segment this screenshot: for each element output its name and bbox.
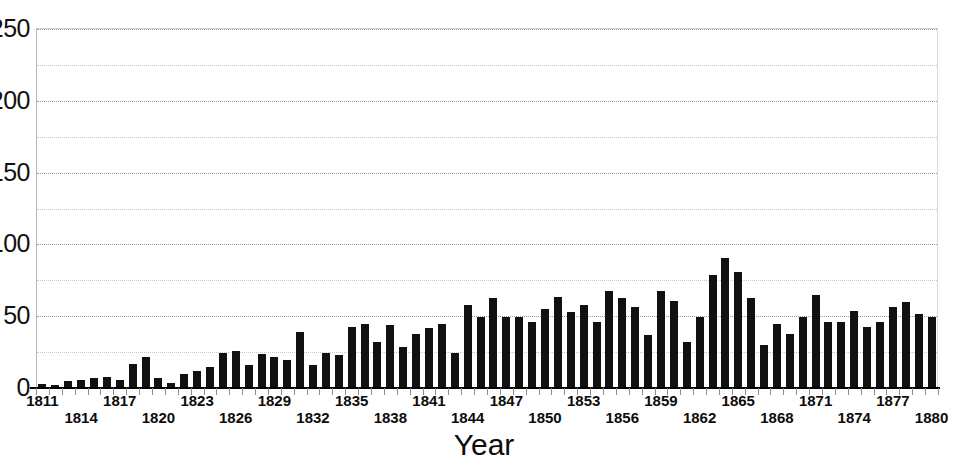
x-axis-tick xyxy=(216,388,217,395)
x-axis-tick xyxy=(680,388,681,395)
x-axis-tick xyxy=(925,388,926,395)
x-axis-tick-label: 1853 xyxy=(567,392,600,409)
bar xyxy=(721,258,729,387)
bar xyxy=(580,305,588,387)
bar xyxy=(631,307,639,387)
bar xyxy=(928,317,936,387)
bar xyxy=(348,327,356,387)
x-axis-tick xyxy=(861,388,862,395)
x-axis-tick xyxy=(307,388,308,395)
x-axis-tick-label: 1859 xyxy=(644,392,677,409)
x-axis-tick xyxy=(616,388,617,395)
bar xyxy=(528,322,536,387)
x-axis-tick-label: 1823 xyxy=(180,392,213,409)
x-axis-tick xyxy=(88,388,89,395)
y-axis-tick-label: 200 xyxy=(0,87,30,112)
bar xyxy=(425,328,433,387)
x-axis-tick xyxy=(629,388,630,395)
y-axis-tick-label: 100 xyxy=(0,231,30,256)
x-axis-tick xyxy=(75,388,76,395)
x-axis-tick xyxy=(874,388,875,395)
bar xyxy=(142,357,150,387)
x-axis-tick xyxy=(423,388,424,395)
x-axis-tick xyxy=(229,388,230,395)
bar xyxy=(335,355,343,387)
x-axis-tick xyxy=(848,388,849,395)
x-axis-tick xyxy=(152,388,153,395)
bar xyxy=(245,365,253,387)
x-axis-tick xyxy=(667,388,668,395)
x-axis-tick xyxy=(255,388,256,395)
x-axis-tick-labels: 1811181418171820182318261829183218351838… xyxy=(0,392,968,432)
bar xyxy=(502,317,510,387)
x-axis-tick-label: 1811 xyxy=(26,392,59,409)
x-axis-tick xyxy=(655,388,656,395)
bar xyxy=(386,325,394,387)
bar xyxy=(734,272,742,387)
x-axis-tick-label: 1814 xyxy=(64,409,97,426)
x-axis-tick-label: 1880 xyxy=(915,409,948,426)
bar xyxy=(773,324,781,387)
x-axis-tick xyxy=(526,388,527,395)
bar xyxy=(850,311,858,387)
x-axis-tick-label: 1829 xyxy=(258,392,291,409)
bar xyxy=(812,295,820,387)
bar xyxy=(747,298,755,387)
bar xyxy=(696,317,704,387)
x-axis-line xyxy=(30,387,940,389)
x-axis-tick-label: 1820 xyxy=(142,409,175,426)
x-axis-tick xyxy=(371,388,372,395)
x-axis-tick xyxy=(242,388,243,395)
x-axis-title: Year xyxy=(0,428,968,462)
x-axis-tick-label: 1826 xyxy=(219,409,252,426)
x-axis-tick xyxy=(345,388,346,395)
x-axis-tick-label: 1871 xyxy=(799,392,832,409)
y-axis-tick-label: 250 xyxy=(0,16,30,41)
bar xyxy=(193,371,201,387)
x-axis-tick xyxy=(539,388,540,395)
x-axis-tick xyxy=(139,388,140,395)
x-axis-tick xyxy=(36,388,37,395)
x-axis-tick xyxy=(693,388,694,395)
x-axis-tick xyxy=(319,388,320,395)
x-axis-tick xyxy=(500,388,501,395)
x-axis-tick-label: 1874 xyxy=(838,409,871,426)
x-axis-tick xyxy=(835,388,836,395)
x-axis-tick xyxy=(706,388,707,395)
x-axis-tick xyxy=(822,388,823,395)
x-axis-tick xyxy=(332,388,333,395)
bar xyxy=(902,302,910,387)
x-axis-tick-label: 1838 xyxy=(374,409,407,426)
x-axis-tick xyxy=(770,388,771,395)
x-axis-tick xyxy=(603,388,604,395)
bar xyxy=(889,307,897,387)
bar xyxy=(760,345,768,387)
x-axis-tick-label: 1817 xyxy=(103,392,136,409)
bar xyxy=(515,317,523,387)
x-axis-tick xyxy=(268,388,269,395)
x-axis-tick xyxy=(62,388,63,395)
bar xyxy=(593,322,601,387)
bar xyxy=(77,380,85,387)
x-axis-tick-label: 1847 xyxy=(490,392,523,409)
x-axis-tick xyxy=(126,388,127,395)
y-axis-tick-label: 50 xyxy=(3,303,30,328)
bar xyxy=(554,297,562,387)
bar xyxy=(219,353,227,387)
x-axis-tick xyxy=(100,388,101,395)
bar xyxy=(206,367,214,387)
x-axis-tick xyxy=(783,388,784,395)
bar xyxy=(837,322,845,387)
x-axis-tick-label: 1835 xyxy=(335,392,368,409)
bar xyxy=(915,314,923,387)
y-axis-tick-label: 150 xyxy=(0,159,30,184)
x-axis-tick-label: 1832 xyxy=(296,409,329,426)
bar xyxy=(799,317,807,387)
bar xyxy=(116,380,124,387)
x-axis-tick xyxy=(938,388,939,395)
bar xyxy=(258,354,266,387)
x-axis-tick xyxy=(384,388,385,395)
bar xyxy=(786,334,794,387)
bar xyxy=(657,291,665,387)
x-axis-tick xyxy=(474,388,475,395)
